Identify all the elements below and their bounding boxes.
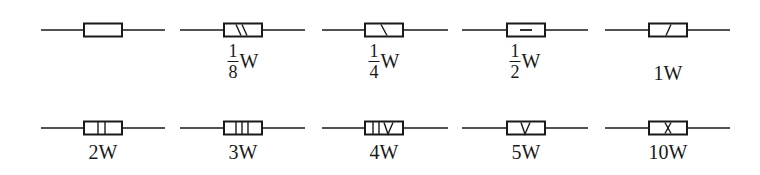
label-10w: 10W <box>649 142 688 162</box>
resistor-10w-symbol <box>605 122 730 135</box>
resistor-1-8w-symbol <box>180 24 305 37</box>
label-1-8w: 18 W <box>228 42 259 81</box>
label-4w: 4W <box>370 142 399 162</box>
resistor-3w-symbol <box>180 122 305 135</box>
label-5w: 5W <box>512 142 541 162</box>
label-1-4w: 14 W <box>369 42 400 81</box>
resistor-generic-symbol <box>41 24 165 37</box>
resistor-5w-symbol <box>462 122 588 135</box>
resistor-1w-symbol <box>605 24 730 37</box>
label-1w: 1W <box>654 63 683 83</box>
resistor-1-4w-symbol <box>322 24 448 37</box>
resistor-2w-symbol <box>41 122 165 135</box>
label-3w: 3W <box>229 142 258 162</box>
label-2w: 2W <box>89 142 118 162</box>
resistor-1-2w-symbol <box>462 24 588 37</box>
label-1-2w: 12 W <box>510 42 541 81</box>
resistor-4w-symbol <box>322 122 448 135</box>
